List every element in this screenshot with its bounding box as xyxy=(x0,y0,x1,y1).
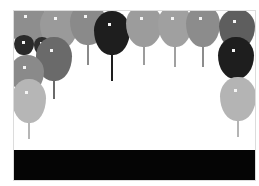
balloon-string xyxy=(174,45,176,67)
balloon-highlight xyxy=(23,66,26,69)
game-canvas[interactable] xyxy=(13,10,256,181)
bottom-status-bar xyxy=(14,150,256,181)
balloon-body xyxy=(218,37,254,79)
balloon-body xyxy=(126,11,162,47)
balloon-body xyxy=(94,11,130,55)
balloon-string xyxy=(28,121,30,139)
balloon-string xyxy=(237,119,239,137)
balloon-string xyxy=(202,45,204,67)
balloon-highlight xyxy=(140,17,143,20)
balloon[interactable] xyxy=(14,79,46,141)
balloon-highlight xyxy=(84,15,87,18)
balloon-body xyxy=(14,35,34,55)
balloon[interactable] xyxy=(126,11,162,67)
balloon-string xyxy=(143,45,145,65)
balloon-body xyxy=(14,79,46,123)
balloon-highlight xyxy=(25,91,28,94)
balloon[interactable] xyxy=(220,77,256,139)
balloon-highlight xyxy=(232,49,235,52)
balloon-highlight xyxy=(50,49,53,52)
balloon[interactable] xyxy=(94,11,130,83)
balloon-string xyxy=(87,43,89,65)
balloon-highlight xyxy=(54,17,57,20)
balloon-playfield[interactable] xyxy=(14,11,256,150)
balloon-body xyxy=(220,77,256,121)
balloon-string xyxy=(53,79,55,99)
balloon-highlight xyxy=(24,15,27,18)
balloon-highlight xyxy=(233,20,236,23)
balloon-highlight xyxy=(22,41,25,44)
balloon[interactable] xyxy=(14,35,34,55)
balloon-string xyxy=(111,53,113,81)
balloon-highlight xyxy=(234,89,237,92)
balloon-body xyxy=(186,11,220,47)
balloon-highlight xyxy=(171,17,174,20)
balloon-highlight xyxy=(108,23,111,26)
balloon-highlight xyxy=(199,17,202,20)
balloon[interactable] xyxy=(186,11,220,69)
